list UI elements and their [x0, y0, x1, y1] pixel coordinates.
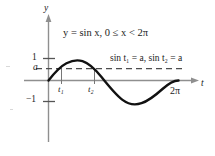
y-tick-label-negative-one: −1 — [26, 95, 36, 105]
sine-curve — [49, 60, 179, 104]
graph-canvas — [0, 0, 215, 156]
y-axis-label: y — [44, 4, 48, 14]
sine-graph-figure: y = sin x, 0 ≤ x < 2π sin t₁ = a, sin t₂… — [0, 0, 215, 156]
title-equation: y = sin x, 0 ≤ x < 2π — [63, 28, 148, 39]
y-tick-label-a: a — [33, 63, 38, 73]
x-tick-label-t1: t₁ — [58, 85, 64, 94]
x-axis-label: t — [201, 79, 204, 89]
x-tick-label-two-pi: 2π — [170, 86, 180, 96]
y-axis-arrowhead — [46, 14, 52, 22]
x-tick-label-t2: t₂ — [88, 85, 94, 94]
solution-annotation: sin t₁ = a, sin t₂ = a — [110, 54, 182, 64]
scan-speck-lower-left — [10, 109, 13, 110]
scan-speck-left — [6, 66, 10, 67]
x-axis-arrowhead — [191, 78, 199, 84]
